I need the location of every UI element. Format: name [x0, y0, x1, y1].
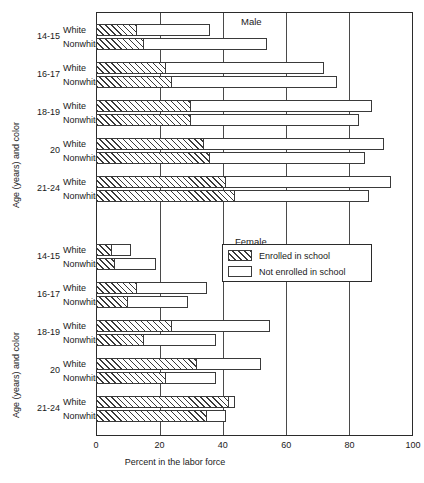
age-group-label: 20: [20, 365, 60, 375]
race-row-label: White: [63, 245, 86, 255]
bar-segment-not-enrolled: [196, 358, 260, 370]
age-group-label: 20: [20, 145, 60, 155]
bar-segment-enrolled: [96, 38, 144, 50]
x-tick-label: 60: [271, 440, 301, 450]
bar-row: [96, 138, 384, 150]
x-tick-label: 80: [335, 440, 365, 450]
bar-segment-not-enrolled: [143, 38, 268, 50]
bar-segment-enrolled: [96, 320, 172, 332]
bar-row: [96, 396, 235, 408]
bar-segment-enrolled: [96, 100, 191, 112]
race-row-label: Nonwhite: [63, 115, 101, 125]
bar-row: [96, 114, 359, 126]
bar-segment-not-enrolled: [190, 100, 372, 112]
bar-segment-not-enrolled: [190, 114, 359, 126]
panel-title-male: Male: [241, 16, 262, 27]
bar-row: [96, 176, 391, 188]
age-group-label: 18-19: [20, 107, 60, 117]
legend-item-enrolled: Enrolled in school: [228, 249, 330, 262]
age-group-label: 21-24: [20, 183, 60, 193]
race-row-label: Nonwhite: [63, 411, 101, 421]
x-tick-label: 40: [208, 440, 238, 450]
bar-segment-enrolled: [96, 244, 112, 256]
x-tick-label: 20: [144, 440, 174, 450]
bar-segment-enrolled: [96, 138, 204, 150]
race-row-label: White: [63, 283, 86, 293]
age-group-label: 18-19: [20, 327, 60, 337]
bar-segment-enrolled: [96, 396, 229, 408]
age-group-label: 16-17: [20, 289, 60, 299]
bar-row: [96, 24, 210, 36]
race-row-label: Nonwhite: [63, 335, 101, 345]
bar-row: [96, 244, 131, 256]
bar-row: [96, 62, 324, 74]
bar-segment-enrolled: [96, 176, 226, 188]
bar-segment-not-enrolled: [111, 244, 131, 256]
bar-segment-not-enrolled: [225, 176, 391, 188]
race-row-label: White: [63, 359, 86, 369]
race-row-label: White: [63, 25, 86, 35]
bar-row: [96, 372, 216, 384]
race-row-label: Nonwhite: [63, 297, 101, 307]
bar-segment-not-enrolled: [127, 296, 188, 308]
legend-item-not-enrolled: Not enrolled in school: [228, 265, 346, 278]
bar-row: [96, 190, 369, 202]
bar-row: [96, 334, 216, 346]
bar-segment-not-enrolled: [136, 282, 207, 294]
bar-row: [96, 410, 226, 422]
bar-row: [96, 282, 207, 294]
bar-segment-enrolled: [96, 258, 115, 270]
x-axis-label: Percent in the labor force: [0, 457, 387, 467]
bar-segment-enrolled: [96, 296, 128, 308]
race-row-label: White: [63, 397, 86, 407]
bar-segment-enrolled: [96, 410, 207, 422]
bar-segment-enrolled: [96, 76, 172, 88]
bar-row: [96, 258, 156, 270]
bar-segment-enrolled: [96, 358, 197, 370]
age-group-label: 16-17: [20, 69, 60, 79]
x-tick-label: 100: [398, 440, 424, 450]
bar-segment-not-enrolled: [165, 372, 217, 384]
race-row-label: Nonwhite: [63, 77, 101, 87]
bar-row: [96, 320, 270, 332]
bar-segment-not-enrolled: [171, 76, 337, 88]
bar-segment-not-enrolled: [234, 190, 368, 202]
chart-figure: Male Female Age (years) and color Age (y…: [0, 0, 424, 483]
age-group-label: 21-24: [20, 403, 60, 413]
bar-row: [96, 296, 188, 308]
bar-row: [96, 358, 261, 370]
gridline-80: [349, 13, 350, 435]
legend: Enrolled in school Not enrolled in schoo…: [222, 244, 372, 282]
race-row-label: White: [63, 177, 86, 187]
bar-segment-enrolled: [96, 114, 191, 126]
race-row-label: Nonwhite: [63, 39, 101, 49]
bar-segment-not-enrolled: [206, 410, 226, 422]
legend-swatch-not-enrolled-icon: [228, 266, 252, 277]
race-row-label: Nonwhite: [63, 191, 101, 201]
bar-segment-not-enrolled: [143, 334, 217, 346]
bar-row: [96, 100, 372, 112]
race-row-label: White: [63, 321, 86, 331]
race-row-label: Nonwhite: [63, 259, 101, 269]
age-group-label: 14-15: [20, 31, 60, 41]
bar-row: [96, 76, 337, 88]
bar-segment-enrolled: [96, 372, 166, 384]
bar-segment-not-enrolled: [203, 138, 385, 150]
bar-row: [96, 152, 365, 164]
bar-segment-enrolled: [96, 152, 210, 164]
legend-swatch-enrolled-icon: [228, 250, 252, 261]
race-row-label: Nonwhite: [63, 153, 101, 163]
bar-segment-enrolled: [96, 334, 144, 346]
race-row-label: White: [63, 101, 86, 111]
y-axis-label-male: Age (years) and color: [11, 122, 21, 208]
x-tick-label: 0: [81, 440, 111, 450]
bar-segment-enrolled: [96, 282, 137, 294]
bar-segment-not-enrolled: [136, 24, 210, 36]
race-row-label: White: [63, 63, 86, 73]
bar-segment-enrolled: [96, 24, 137, 36]
bar-segment-not-enrolled: [209, 152, 365, 164]
legend-label-not-enrolled: Not enrolled in school: [259, 267, 346, 277]
race-row-label: Nonwhite: [63, 373, 101, 383]
bar-segment-enrolled: [96, 190, 235, 202]
age-group-label: 14-15: [20, 251, 60, 261]
